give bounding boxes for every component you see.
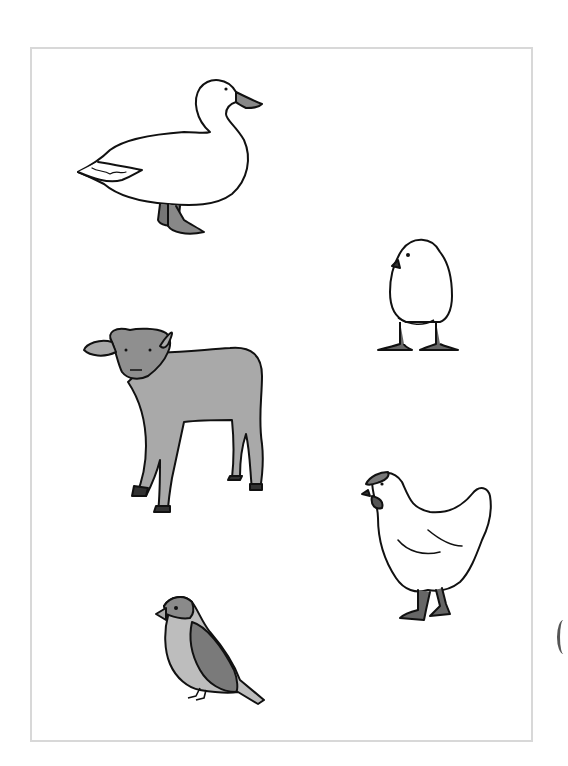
hen-illustration bbox=[362, 472, 491, 620]
chick-illustration bbox=[378, 240, 458, 350]
sparrow-illustration bbox=[156, 597, 264, 704]
calf-illustration bbox=[84, 329, 263, 512]
partial-shape-edge bbox=[557, 620, 568, 654]
duck-illustration bbox=[78, 80, 262, 233]
